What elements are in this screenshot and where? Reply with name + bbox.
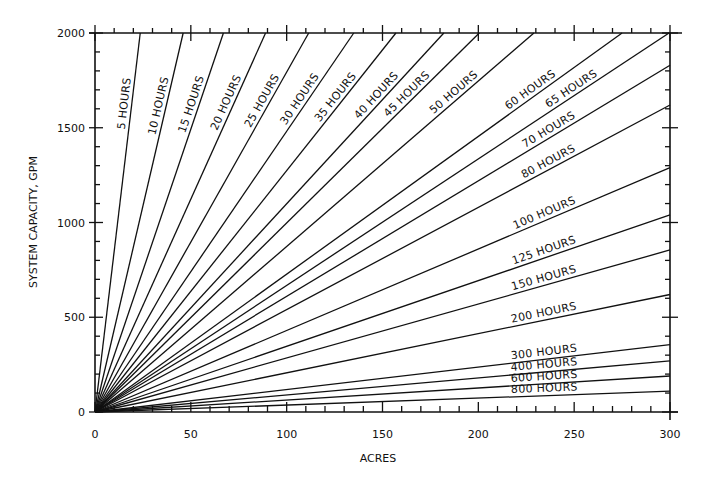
line-label: 25 HOURS — [242, 72, 283, 130]
line-label: 15 HOURS — [176, 74, 207, 135]
y-tick-label: 0 — [78, 406, 85, 419]
x-tick-label: 200 — [468, 428, 489, 441]
line-label: 10 HOURS — [145, 75, 171, 136]
x-tick-label: 100 — [276, 428, 297, 441]
line-label: 20 HOURS — [208, 73, 244, 133]
line-label: 800 HOURS — [511, 381, 578, 396]
x-tick-label: 150 — [372, 428, 393, 441]
hour-line — [95, 33, 183, 412]
hour-line — [95, 33, 479, 412]
line-labels: 5 HOURS10 HOURS15 HOURS20 HOURS25 HOURS3… — [115, 67, 600, 396]
y-tick-label: 2000 — [57, 27, 85, 40]
y-axis-title: SYSTEM CAPACITY, GPM — [27, 156, 40, 288]
x-tick-label: 50 — [184, 428, 198, 441]
hour-line — [95, 33, 396, 412]
y-tick-label: 500 — [64, 311, 85, 324]
x-axis-title: ACRES — [360, 452, 397, 465]
line-label: 5 HOURS — [115, 77, 134, 130]
line-label: 200 HOURS — [510, 300, 578, 326]
x-tick-label: 0 — [92, 428, 99, 441]
hour-line — [95, 215, 670, 412]
line-label: 150 HOURS — [510, 262, 578, 293]
y-tick-label: 1500 — [57, 122, 85, 135]
line-label: 100 HOURS — [511, 194, 578, 232]
hour-line — [95, 168, 670, 412]
hour-line — [95, 250, 670, 412]
x-tick-label: 300 — [660, 428, 681, 441]
line-label: 50 HOURS — [427, 68, 481, 117]
capacity-chart: 0501001502002503000500100015002000 5 HOU… — [0, 0, 706, 487]
y-tick-label: 1000 — [57, 217, 85, 230]
x-tick-label: 250 — [564, 428, 585, 441]
